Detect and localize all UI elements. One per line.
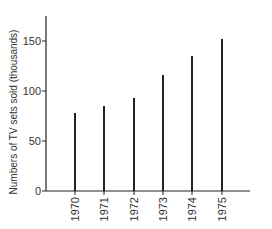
y-tick-label: 150 (23, 35, 41, 47)
y-tick-label: 50 (29, 135, 41, 147)
bars (75, 39, 222, 191)
x-tick-label-1971: 1971 (98, 197, 110, 221)
axes (46, 16, 250, 191)
x-tick-label-1970: 1970 (69, 197, 81, 221)
x-tick-label-1973: 1973 (157, 197, 169, 221)
x-ticks: 197019711972197319741975 (69, 191, 228, 221)
x-tick-label-1974: 1974 (186, 197, 198, 221)
x-tick-label-1972: 1972 (128, 197, 140, 221)
y-tick-label: 0 (35, 185, 41, 197)
bar-chart: 050100150 197019711972197319741975 Numbe… (0, 0, 272, 229)
y-ticks: 050100150 (23, 35, 46, 197)
x-tick-label-1975: 1975 (216, 197, 228, 221)
y-tick-label: 100 (23, 85, 41, 97)
y-axis-title: Numbers of TV sets sold (thousands) (8, 30, 19, 195)
